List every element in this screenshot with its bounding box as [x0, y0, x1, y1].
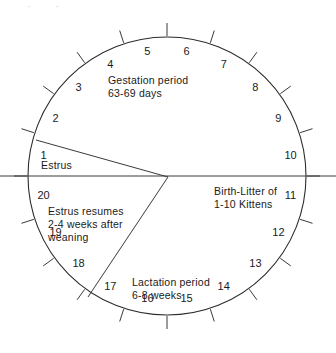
cycle-number-2: 2 [53, 112, 59, 124]
cycle-number-8: 8 [252, 81, 258, 93]
tick-after-14 [210, 309, 214, 321]
label-gestation-period: Gestation period 63-69 days [108, 74, 188, 100]
tick-after-9 [300, 129, 312, 133]
tick-after-11 [300, 219, 312, 223]
label-birth-litter: Birth-Litter of 1-10 Kittens [214, 185, 277, 211]
cycle-number-14: 14 [218, 280, 230, 292]
tick-after-13 [249, 289, 257, 300]
tick-after-6 [210, 31, 214, 43]
cycle-number-5: 5 [144, 45, 150, 57]
tick-after-12 [280, 258, 291, 266]
tick-after-16 [120, 309, 124, 321]
cycle-number-6: 6 [184, 45, 190, 57]
cycle-number-7: 7 [221, 58, 227, 70]
cycle-number-9: 9 [275, 112, 281, 124]
tick-after-3 [77, 52, 85, 63]
tick-after-18 [43, 258, 54, 266]
label-estrus: Estrus [41, 159, 72, 172]
tick-after-8 [280, 86, 291, 94]
tick-after-4 [120, 31, 124, 43]
label-estrus-resumes: Estrus resumes 2-4 weeks after weaning [48, 205, 124, 244]
cycle-number-4: 4 [107, 58, 113, 70]
cycle-number-18: 18 [72, 257, 84, 269]
tick-after-17 [77, 289, 85, 300]
cycle-number-10: 10 [284, 149, 296, 161]
cycle-number-11: 11 [285, 189, 296, 201]
tick-after-2 [43, 86, 54, 94]
label-lactation-period: Lactation period 6-8 weeks [132, 276, 210, 302]
cycle-diagram: — · · 1234567891011121314151617181920 Ge… [0, 0, 336, 353]
cycle-number-20: 20 [37, 189, 49, 201]
cycle-number-3: 3 [76, 81, 82, 93]
tick-after-7 [249, 52, 257, 63]
tick-after-19 [22, 219, 34, 223]
cycle-number-17: 17 [104, 280, 116, 292]
tick-after-1 [22, 129, 34, 133]
cycle-number-12: 12 [272, 226, 284, 238]
cycle-number-13: 13 [249, 257, 261, 269]
